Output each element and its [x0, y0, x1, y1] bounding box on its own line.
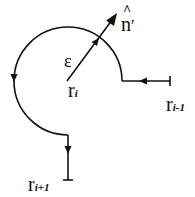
normal-hat-icon: ^: [123, 4, 131, 18]
epsilon-label: ε: [64, 52, 72, 70]
r-i-label: ri: [68, 80, 78, 100]
arrowhead-epsilon-icon: [92, 38, 100, 46]
contour-diagram: ε ri ri-1 ri+1 n′ ^: [0, 0, 195, 197]
arrowhead-arc-icon: [11, 74, 18, 82]
r-prev-label: ri-1: [166, 94, 185, 114]
r-next-label: ri+1: [28, 174, 50, 194]
arrowhead-outgoing-icon: [65, 146, 72, 154]
arrowhead-normal-icon: [106, 13, 117, 26]
radius-vector: [67, 20, 112, 81]
arrowhead-incoming-icon: [139, 78, 147, 85]
